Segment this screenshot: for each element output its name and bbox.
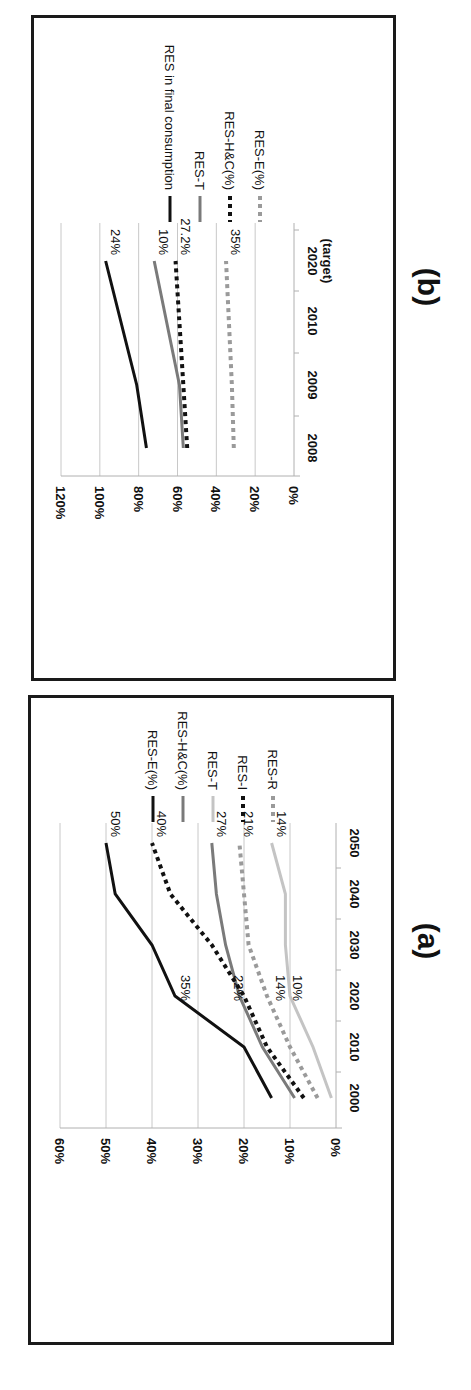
legend-label: RES-E(%) xyxy=(252,130,267,190)
series-line xyxy=(154,261,183,448)
line-chart-b: 0%20%40%60%80%100%120%2008200920102020(t… xyxy=(34,18,399,684)
data-label: 14% xyxy=(274,811,289,837)
y-tick-label: 60% xyxy=(170,486,185,512)
series-line xyxy=(106,261,147,448)
x-tick-label: 2010 xyxy=(305,307,320,336)
y-tick-label: 20% xyxy=(247,486,262,512)
x-tick-label: 2010 xyxy=(347,1033,362,1062)
chart-panel-a: 0%10%20%30%40%50%60%20002010202020302040… xyxy=(28,695,394,1345)
data-label: 50% xyxy=(108,811,123,837)
data-label: 10% xyxy=(156,229,171,255)
legend-label: RES-E(%) xyxy=(145,730,160,790)
y-tick-label: 20% xyxy=(236,1138,251,1164)
legend-label: RES-H&C(%) xyxy=(222,111,237,190)
y-tick-label: 10% xyxy=(282,1138,297,1164)
data-label: 14% xyxy=(273,975,288,1001)
x-tick-label: 2009 xyxy=(305,371,320,400)
line-chart-a: 0%10%20%30%40%50%60%20002010202020302040… xyxy=(31,698,397,1348)
series-line xyxy=(106,843,272,1098)
x-tick-label: (target) xyxy=(320,239,335,284)
y-tick-label: 40% xyxy=(144,1138,159,1164)
chart-panel-b: 0%20%40%60%80%100%120%2008200920102020(t… xyxy=(31,15,396,681)
x-tick-label: 2050 xyxy=(347,829,362,858)
panel-label-a: (a) xyxy=(411,911,445,971)
data-label: 35% xyxy=(178,975,193,1001)
panel-label-b: (b) xyxy=(411,257,445,317)
legend-label: RES in final consumption xyxy=(162,45,177,190)
y-tick-label: 80% xyxy=(131,486,146,512)
y-tick-label: 30% xyxy=(190,1138,205,1164)
legend-label: RES-H&C(%) xyxy=(175,711,190,790)
x-tick-label: 2020 xyxy=(347,982,362,1011)
x-tick-label: 2040 xyxy=(347,880,362,909)
data-label: 24% xyxy=(108,229,123,255)
y-tick-label: 40% xyxy=(208,486,223,512)
data-label: 40% xyxy=(154,811,169,837)
legend-label: RES-T xyxy=(192,151,207,190)
x-tick-label: 2000 xyxy=(347,1084,362,1113)
data-label: 35% xyxy=(228,229,243,255)
y-tick-label: 60% xyxy=(52,1138,67,1164)
y-tick-label: 100% xyxy=(92,486,107,520)
series-line xyxy=(226,261,234,448)
y-tick-label: 0% xyxy=(328,1138,343,1157)
data-label: 21% xyxy=(241,811,256,837)
legend-label: RES-R xyxy=(265,750,280,790)
series-line xyxy=(272,843,332,1098)
legend-label: RES-T xyxy=(205,751,220,790)
y-tick-label: 0% xyxy=(286,486,301,505)
data-label: 27.2% xyxy=(178,218,193,255)
x-tick-label: 2030 xyxy=(347,931,362,960)
x-tick-label: 2020 xyxy=(305,247,320,276)
x-tick-label: 2008 xyxy=(305,434,320,463)
y-tick-label: 50% xyxy=(98,1138,113,1164)
data-label: 10% xyxy=(290,975,305,1001)
legend-label: RES-I xyxy=(235,755,250,790)
y-tick-label: 120% xyxy=(53,486,68,520)
data-label: 27% xyxy=(214,811,229,837)
